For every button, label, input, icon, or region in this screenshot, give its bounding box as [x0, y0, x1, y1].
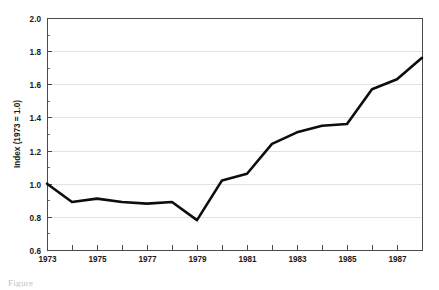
y-tick-label: 1.0 — [30, 181, 42, 190]
x-tick-label: 1973 — [38, 255, 57, 264]
x-axis-tick-labels: 19731975197719791981198319851987 — [38, 255, 407, 264]
y-tick-label: 1.8 — [30, 48, 42, 57]
x-tick-label: 1983 — [288, 255, 307, 264]
y-tick-label: 2.0 — [30, 15, 42, 24]
figure-container: 2.01.81.61.41.21.00.80.6 197319751977197… — [0, 0, 439, 290]
y-axis-title: Index (1973 = 1.0) — [13, 100, 22, 168]
y-tick-label: 1.4 — [30, 114, 42, 123]
axis-ticks — [47, 19, 423, 251]
figure-caption-fragment: Figure — [8, 278, 128, 287]
gridlines — [47, 52, 422, 218]
y-axis-tick-labels: 2.01.81.61.41.21.00.80.6 — [30, 15, 42, 256]
y-tick-label: 1.2 — [30, 148, 42, 157]
x-tick-label: 1981 — [238, 255, 257, 264]
line-chart: 2.01.81.61.41.21.00.80.6 197319751977197… — [0, 0, 439, 290]
x-tick-label: 1985 — [338, 255, 357, 264]
y-tick-label: 1.6 — [30, 81, 42, 90]
x-tick-label: 1977 — [138, 255, 157, 264]
x-tick-label: 1975 — [88, 255, 107, 264]
x-tick-label: 1987 — [388, 255, 407, 264]
axis-frame — [47, 18, 422, 250]
x-tick-label: 1979 — [188, 255, 207, 264]
data-series-line — [47, 58, 422, 220]
y-tick-label: 0.8 — [30, 214, 42, 223]
